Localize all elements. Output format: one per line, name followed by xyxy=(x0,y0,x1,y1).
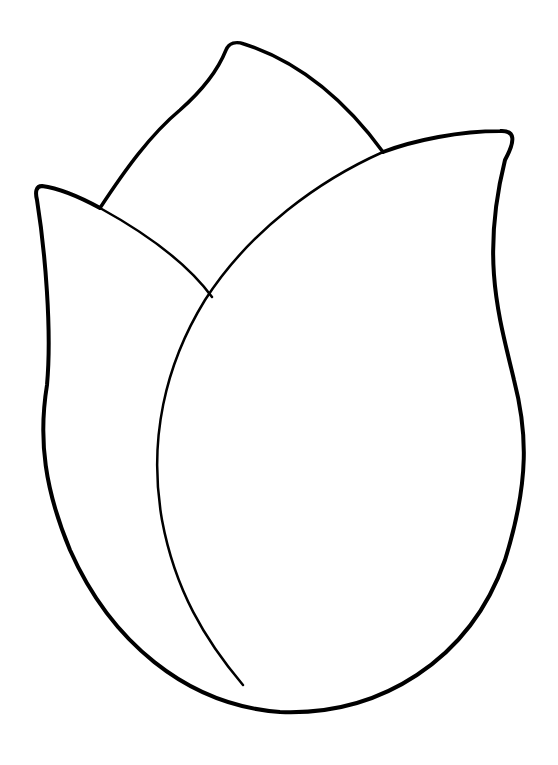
left-petal-edge xyxy=(100,208,212,297)
center-fold-line xyxy=(157,152,383,685)
tulip-drawing xyxy=(0,0,558,765)
back-petal xyxy=(100,43,383,208)
outer-outline xyxy=(36,131,524,712)
tulip-outline-icon xyxy=(0,0,558,765)
